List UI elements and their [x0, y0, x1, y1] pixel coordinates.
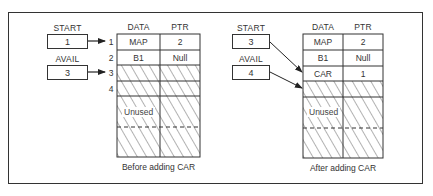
after-row3-data: CAR — [303, 66, 343, 81]
before-ptr-header: PTR — [160, 22, 200, 32]
after-data-header: DATA — [303, 22, 343, 32]
before-avail-label: AVAIL — [47, 54, 88, 64]
after-caption: After adding CAR — [298, 163, 388, 173]
before-row-index-2: 2 — [106, 53, 116, 63]
before-avail-box: 3 — [47, 65, 88, 80]
after-pointer-arrows — [270, 42, 302, 88]
before-row-index-1: 1 — [106, 37, 116, 47]
before-unused-label: Unused — [122, 107, 155, 117]
after-row1-ptr: 2 — [343, 34, 383, 50]
after-row2-ptr: Null — [343, 50, 383, 66]
after-start-label: START — [232, 23, 270, 33]
before-start-box: 1 — [47, 34, 88, 49]
before-caption: Before adding CAR — [112, 162, 205, 172]
before-start-label: START — [47, 23, 88, 33]
after-row2-data: B1 — [303, 50, 343, 66]
before-row2-ptr: Null — [160, 50, 200, 65]
after-unused-label: Unused — [307, 107, 340, 117]
before-row-index-3: 3 — [106, 68, 116, 78]
before-row-index-4: 4 — [106, 84, 116, 94]
before-pointer-arrows — [88, 41, 105, 72]
before-row1-data: MAP — [117, 34, 160, 50]
after-row3-ptr: 1 — [343, 66, 383, 81]
after-avail-box: 4 — [232, 65, 270, 80]
after-avail-label: AVAIL — [232, 54, 270, 64]
before-row2-data: B1 — [117, 50, 160, 65]
after-ptr-header: PTR — [343, 22, 383, 32]
before-row1-ptr: 2 — [160, 34, 200, 50]
after-start-box: 3 — [232, 34, 270, 49]
before-data-header: DATA — [117, 22, 160, 32]
after-row1-data: MAP — [303, 34, 343, 50]
